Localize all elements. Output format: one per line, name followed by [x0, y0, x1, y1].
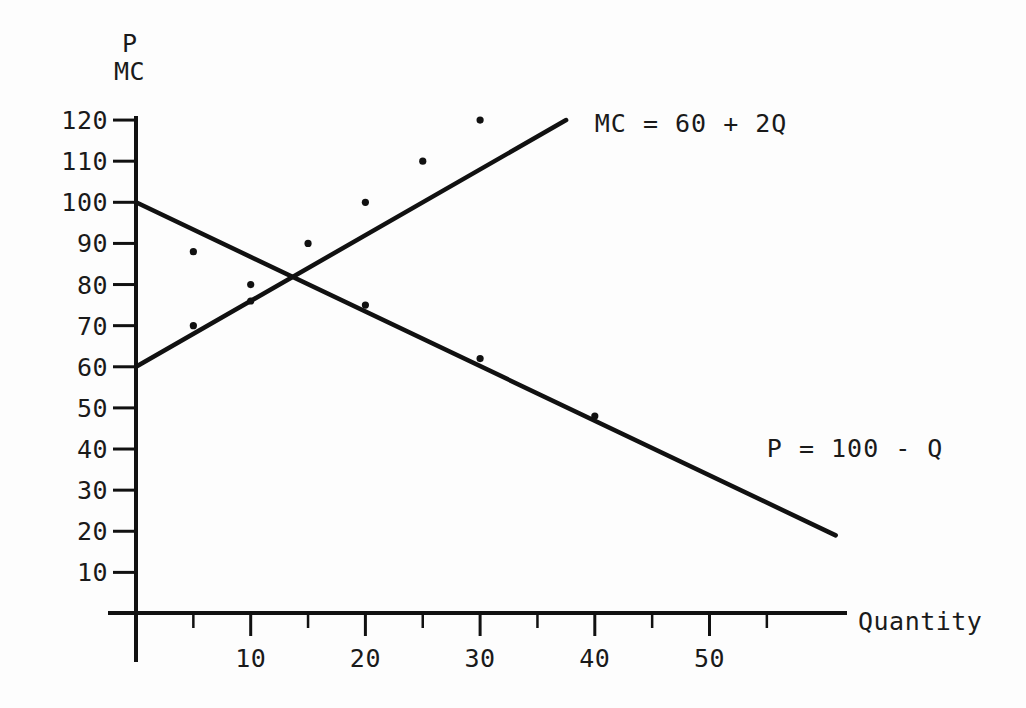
economics-line-chart: 102030405060708090100110120 1020304050 M…	[0, 0, 1026, 708]
y-axis-title-price: P	[122, 29, 138, 58]
chart-container: 102030405060708090100110120 1020304050 M…	[0, 0, 1026, 708]
x-tick-label-40: 40	[579, 644, 610, 673]
y-axis-ticks	[113, 120, 136, 572]
y-tick-label-80: 80	[77, 271, 108, 300]
y-axis-tick-labels: 102030405060708090100110120	[61, 106, 108, 587]
y-tick-label-100: 100	[61, 188, 108, 217]
series-lines-group	[136, 120, 836, 535]
series-1-marker-0	[190, 248, 197, 255]
series-0-marker-5	[477, 116, 484, 123]
y-tick-label-70: 70	[77, 312, 108, 341]
y-tick-label-10: 10	[77, 558, 108, 587]
series-line-0	[136, 120, 566, 367]
series-0-marker-2	[304, 240, 311, 247]
series-1-marker-4	[591, 413, 598, 420]
y-tick-label-90: 90	[77, 229, 108, 258]
x-tick-label-10: 10	[235, 644, 266, 673]
x-axis-title-quantity: Quantity	[858, 607, 982, 636]
y-tick-label-50: 50	[77, 394, 108, 423]
series-0-marker-1	[247, 281, 254, 288]
series-annotation-group: MC = 60 + 2QP = 100 - Q	[595, 109, 944, 463]
y-tick-label-120: 120	[61, 106, 108, 135]
y-axis-title-marginal-cost: MC	[114, 57, 145, 86]
series-0-marker-4	[419, 158, 426, 165]
y-tick-label-20: 20	[77, 517, 108, 546]
series-1-marker-1	[247, 297, 254, 304]
series-label-1: P = 100 - Q	[767, 434, 944, 463]
series-line-1	[136, 202, 836, 535]
y-tick-label-110: 110	[61, 147, 108, 176]
series-markers-group	[190, 116, 599, 419]
x-axis-tick-labels: 1020304050	[235, 644, 725, 673]
series-1-marker-2	[362, 302, 369, 309]
x-tick-label-30: 30	[465, 644, 496, 673]
series-0-marker-0	[190, 322, 197, 329]
x-tick-label-50: 50	[694, 644, 725, 673]
x-axis-ticks	[193, 613, 767, 636]
series-0-marker-3	[362, 199, 369, 206]
y-tick-label-60: 60	[77, 353, 108, 382]
series-label-0: MC = 60 + 2Q	[595, 109, 788, 138]
y-tick-label-30: 30	[77, 476, 108, 505]
x-tick-label-20: 20	[350, 644, 381, 673]
y-tick-label-40: 40	[77, 435, 108, 464]
series-1-marker-3	[477, 355, 484, 362]
